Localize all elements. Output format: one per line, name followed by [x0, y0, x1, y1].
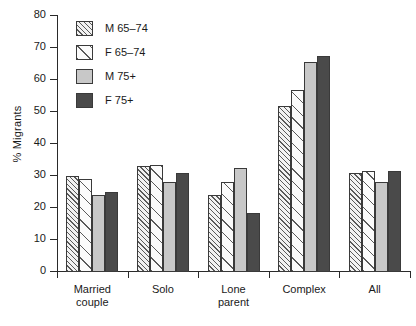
- legend-item: F 75+: [76, 88, 148, 112]
- bar: [362, 171, 375, 272]
- x-group-label: Solo: [128, 283, 199, 296]
- bar: [79, 179, 92, 272]
- x-group-label: All: [339, 283, 410, 296]
- legend-label: F 65–74: [105, 46, 145, 58]
- bar: [66, 176, 79, 272]
- x-group-label: Complex: [269, 283, 340, 296]
- y-tick-label: 10: [24, 233, 46, 244]
- x-tick: [269, 271, 270, 278]
- bar: [234, 168, 247, 272]
- legend-swatch-icon: [76, 69, 93, 84]
- y-tick-label: 80: [24, 9, 46, 20]
- y-axis-title: % Migrants: [11, 89, 23, 179]
- x-group-label: Married couple: [57, 283, 128, 309]
- x-tick: [198, 271, 199, 278]
- bar: [291, 90, 304, 272]
- x-tick: [410, 271, 411, 278]
- chart-legend: M 65–74F 65–74M 75+F 75+: [76, 16, 148, 112]
- y-tick-label: 20: [24, 201, 46, 212]
- bar: [375, 182, 388, 272]
- legend-label: F 75+: [105, 94, 133, 106]
- y-tick-label: 50: [24, 105, 46, 116]
- y-tick-label: 30: [24, 169, 46, 180]
- legend-item: F 65–74: [76, 40, 148, 64]
- legend-swatch-icon: [76, 93, 93, 108]
- bar: [105, 192, 118, 272]
- bar: [137, 166, 150, 272]
- y-tick-label: 70: [24, 41, 46, 52]
- bar: [150, 165, 163, 272]
- bar-chart: % Migrants 01020304050607080 Married cou…: [0, 0, 416, 326]
- y-tick-label: 40: [24, 137, 46, 148]
- bar: [208, 195, 221, 272]
- legend-label: M 65–74: [105, 22, 148, 34]
- bar: [317, 56, 330, 272]
- bar: [349, 173, 362, 272]
- bar: [278, 106, 291, 272]
- legend-label: M 75+: [105, 70, 136, 82]
- bar: [176, 173, 189, 272]
- bar: [304, 62, 317, 272]
- y-tick-label: 0: [24, 265, 46, 276]
- legend-item: M 75+: [76, 64, 148, 88]
- bar: [388, 171, 401, 272]
- bar: [92, 195, 105, 272]
- legend-swatch-icon: [76, 21, 93, 36]
- legend-swatch-icon: [76, 45, 93, 60]
- y-tick-label: 60: [24, 73, 46, 84]
- bar: [163, 182, 176, 272]
- bar: [247, 213, 260, 272]
- bar: [221, 182, 234, 272]
- x-tick: [128, 271, 129, 278]
- x-group-label: Lone parent: [198, 283, 269, 309]
- legend-item: M 65–74: [76, 16, 148, 40]
- x-tick: [339, 271, 340, 278]
- x-tick: [57, 271, 58, 278]
